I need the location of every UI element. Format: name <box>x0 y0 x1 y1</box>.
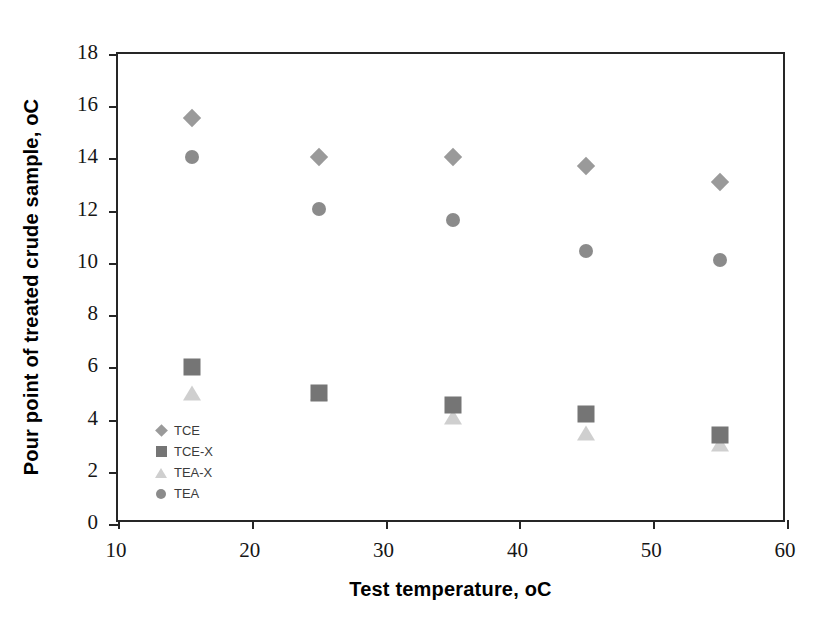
data-point-square <box>712 427 729 444</box>
legend-item-tea-x: TEA-X <box>152 462 213 483</box>
legend-item-tce: TCE <box>152 420 213 441</box>
y-tick-mark <box>109 472 118 474</box>
y-tick-mark <box>109 524 118 526</box>
x-tick-mark <box>252 520 254 529</box>
x-tick-mark <box>118 520 120 529</box>
x-tick-label: 40 <box>477 540 557 561</box>
x-tick-mark <box>519 520 521 529</box>
legend-label: TEA-X <box>174 465 212 480</box>
data-point-diamond <box>711 173 729 191</box>
data-point-circle <box>312 202 326 216</box>
y-axis-title: Pour point of treated crude sample, oC <box>14 52 48 522</box>
data-point-circle <box>446 213 460 227</box>
y-tick-mark <box>109 315 118 317</box>
y-tick-label: 14 <box>26 146 98 167</box>
data-point-square <box>310 385 327 402</box>
y-tick-label: 12 <box>26 199 98 220</box>
y-tick-mark <box>109 54 118 56</box>
legend-item-tea: TEA <box>152 483 213 504</box>
plot-area: TCETCE-XTEA-XTEA <box>116 52 785 522</box>
data-point-square <box>444 397 461 414</box>
legend-label: TEA <box>174 486 199 501</box>
y-tick-label: 16 <box>26 94 98 115</box>
y-tick-mark <box>109 263 118 265</box>
legend-item-tce-x: TCE-X <box>152 441 213 462</box>
y-tick-label: 8 <box>26 303 98 324</box>
x-axis-title: Test temperature, oC <box>116 578 785 601</box>
y-tick-label: 0 <box>26 512 98 533</box>
chart-figure: Pour point of treated crude sample, oC T… <box>0 0 836 631</box>
data-point-circle <box>579 244 593 258</box>
y-tick-label: 6 <box>26 355 98 376</box>
data-point-diamond <box>182 109 200 127</box>
legend-label: TCE-X <box>174 444 213 459</box>
y-tick-mark <box>109 211 118 213</box>
x-tick-mark <box>386 520 388 529</box>
x-tick-label: 60 <box>745 540 825 561</box>
data-point-square <box>578 406 595 423</box>
data-point-square <box>183 359 200 376</box>
x-tick-label: 50 <box>611 540 691 561</box>
data-point-circle <box>185 150 199 164</box>
x-tick-mark <box>787 520 789 529</box>
y-axis-title-container: Pour point of treated crude sample, oC <box>20 52 54 522</box>
data-point-circle <box>713 253 727 267</box>
x-tick-label: 30 <box>344 540 424 561</box>
y-tick-mark <box>109 106 118 108</box>
x-tick-label: 10 <box>76 540 156 561</box>
data-point-diamond <box>577 157 595 175</box>
y-tick-label: 4 <box>26 408 98 429</box>
legend-marker-square-icon <box>152 444 170 460</box>
data-point-triangle <box>183 386 201 401</box>
y-tick-label: 2 <box>26 460 98 481</box>
legend-marker-triangle-icon <box>152 465 170 481</box>
legend-label: TCE <box>174 423 200 438</box>
legend: TCETCE-XTEA-XTEA <box>152 420 213 504</box>
y-tick-mark <box>109 420 118 422</box>
x-tick-mark <box>653 520 655 529</box>
data-point-diamond <box>443 148 461 166</box>
data-point-diamond <box>309 148 327 166</box>
data-point-triangle <box>577 425 595 440</box>
legend-marker-diamond-icon <box>152 423 170 439</box>
y-tick-mark <box>109 158 118 160</box>
legend-marker-circle-icon <box>152 486 170 502</box>
y-tick-label: 10 <box>26 251 98 272</box>
y-tick-mark <box>109 367 118 369</box>
y-tick-label: 18 <box>26 42 98 63</box>
x-tick-label: 20 <box>210 540 290 561</box>
